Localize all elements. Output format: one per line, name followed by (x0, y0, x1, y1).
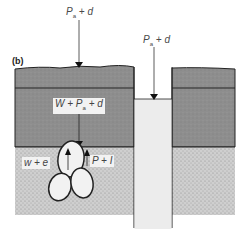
left-force-label: w + e (22, 157, 50, 169)
hole-load-arrow (150, 47, 158, 100)
right-overburden-layer (172, 68, 235, 147)
surface-load-label: Pa + d (66, 6, 93, 19)
panel-label: (b) (12, 56, 24, 66)
right-sediment-layer (172, 147, 235, 215)
right-force-label: P + I (90, 155, 114, 167)
borehole (135, 99, 172, 229)
surface-load-arrow (75, 20, 83, 68)
overburden-label: W + Pa + d (53, 98, 105, 114)
diagram-canvas (0, 0, 247, 237)
hole-load-label: Pa + d (143, 34, 170, 47)
